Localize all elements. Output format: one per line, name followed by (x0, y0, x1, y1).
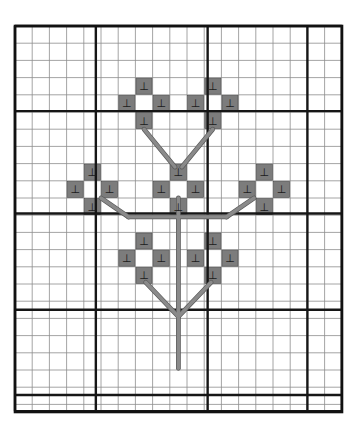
perpendicular-tack-icon: ⊥ (88, 166, 98, 179)
perpendicular-tack-icon: ⊥ (70, 183, 80, 196)
perpendicular-tack-icon: ⊥ (225, 252, 235, 265)
perpendicular-tack-icon: ⊥ (122, 252, 132, 265)
perpendicular-tack-icon: ⊥ (208, 269, 218, 282)
chart-canvas: ⊥⊥⊥⊥⊥⊥⊥⊥⊥⊥⊥⊥⊥⊥⊥⊥⊥⊥⊥⊥⊥⊥⊥⊥⊥⊥⊥⊥ (0, 0, 361, 430)
perpendicular-tack-icon: ⊥ (174, 201, 184, 214)
perpendicular-tack-icon: ⊥ (139, 80, 149, 93)
perpendicular-tack-icon: ⊥ (105, 183, 115, 196)
perpendicular-tack-icon: ⊥ (208, 115, 218, 128)
perpendicular-tack-icon: ⊥ (156, 252, 166, 265)
perpendicular-tack-icon: ⊥ (139, 115, 149, 128)
cross-stitch-chart: ⊥⊥⊥⊥⊥⊥⊥⊥⊥⊥⊥⊥⊥⊥⊥⊥⊥⊥⊥⊥⊥⊥⊥⊥⊥⊥⊥⊥ (0, 0, 361, 430)
perpendicular-tack-icon: ⊥ (174, 166, 184, 179)
perpendicular-tack-icon: ⊥ (88, 201, 98, 214)
perpendicular-tack-icon: ⊥ (156, 183, 166, 196)
perpendicular-tack-icon: ⊥ (122, 97, 132, 110)
perpendicular-tack-icon: ⊥ (191, 183, 201, 196)
perpendicular-tack-icon: ⊥ (242, 183, 252, 196)
perpendicular-tack-icon: ⊥ (191, 97, 201, 110)
perpendicular-tack-icon: ⊥ (191, 252, 201, 265)
perpendicular-tack-icon: ⊥ (208, 80, 218, 93)
perpendicular-tack-icon: ⊥ (260, 166, 270, 179)
perpendicular-tack-icon: ⊥ (139, 269, 149, 282)
perpendicular-tack-icon: ⊥ (156, 97, 166, 110)
perpendicular-tack-icon: ⊥ (208, 235, 218, 248)
perpendicular-tack-icon: ⊥ (277, 183, 287, 196)
perpendicular-tack-icon: ⊥ (225, 97, 235, 110)
perpendicular-tack-icon: ⊥ (260, 201, 270, 214)
perpendicular-tack-icon: ⊥ (139, 235, 149, 248)
